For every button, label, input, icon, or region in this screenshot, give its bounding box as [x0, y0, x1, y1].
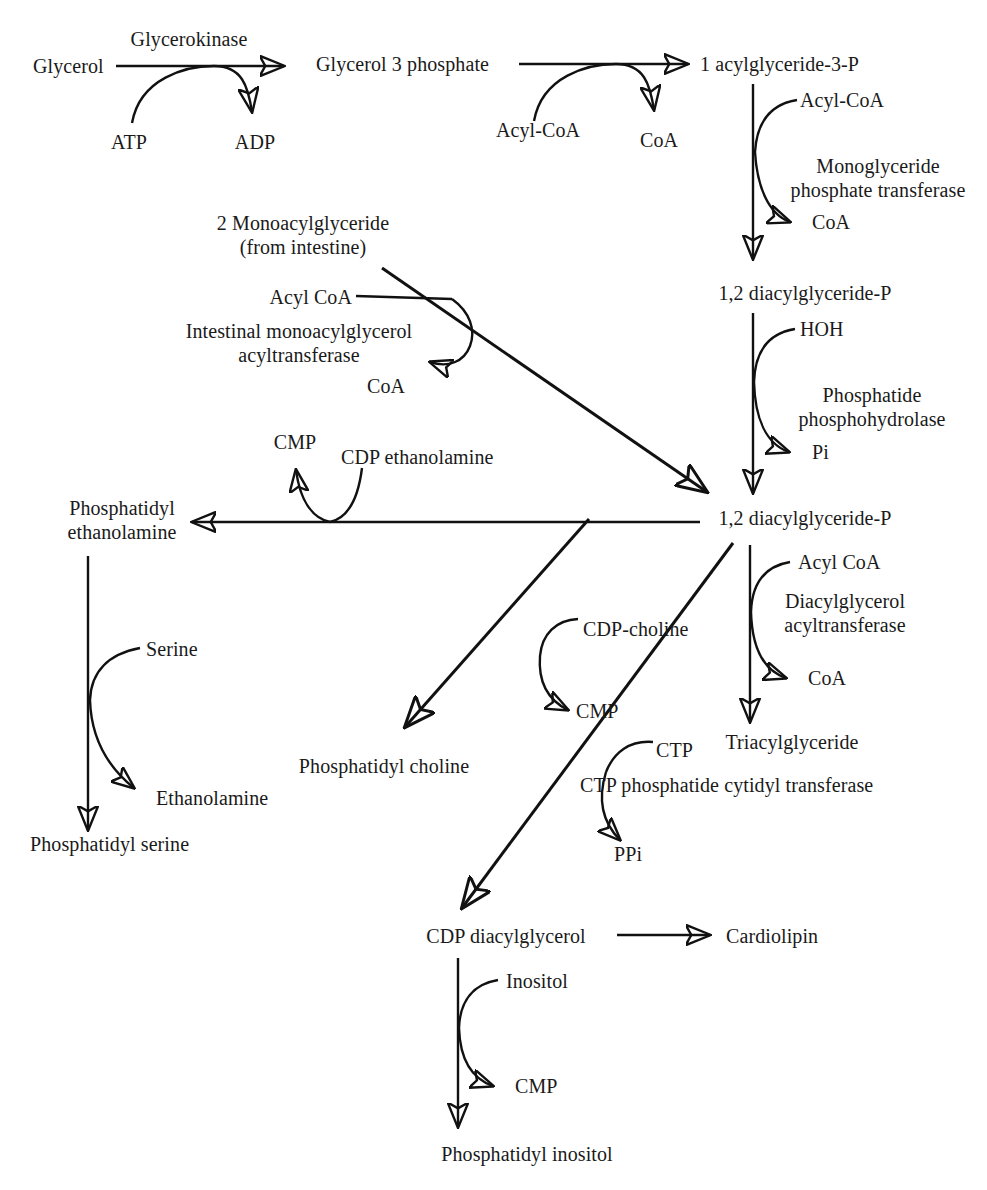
node-phosphatidyl-inositol: Phosphatidyl inositol — [441, 1143, 613, 1167]
cofactor-acyl-coa-4: Acyl CoA — [798, 551, 880, 575]
node-cardiolipin: Cardiolipin — [726, 925, 818, 949]
enzyme-monoglyceride-phosphate-transferase-line1: Monoglyceride — [816, 155, 940, 179]
curve-acylcoa-to-coa-1 — [534, 64, 654, 121]
curve-cdp-ethanolamine-in — [330, 468, 362, 522]
cofactor-pi: Pi — [812, 441, 829, 465]
curve-cmp-out-1 — [296, 470, 330, 522]
node-diacylglyceride-p-1: 1,2 diacylglyceride-P — [718, 282, 891, 306]
node-monoacylglyceride: 2 Monoacylglyceride — [217, 212, 389, 236]
curve-cmp-out-2 — [540, 656, 568, 710]
curve-coa-out-4 — [751, 612, 786, 678]
curve-ethanolamine-out — [90, 700, 134, 788]
enzyme-phosphatide-phosphohydrolase-line2: phosphohydrolase — [798, 408, 945, 432]
node-phosphatidyl-ethanolamine-line2: ethanolamine — [68, 521, 177, 545]
cofactor-atp: ATP — [111, 131, 147, 155]
pathway-diagram-page: Glycerol Glycerokinase ATP ADP Glycerol … — [0, 0, 987, 1190]
enzyme-intestinal-monoacylglycerol-acyltransferase-line2: acyltransferase — [238, 344, 359, 368]
line-acylcoa-in-3 — [356, 296, 452, 299]
cofactor-acyl-coa-3: Acyl CoA — [270, 286, 352, 310]
arrow-hub-to-cdp-diacylglycerol — [462, 543, 733, 908]
cofactor-inositol: Inositol — [506, 970, 568, 994]
cofactor-coa-3: CoA — [367, 375, 405, 399]
curve-hoh-in — [754, 329, 795, 382]
node-glycerol: Glycerol — [33, 55, 104, 79]
node-phosphatidyl-serine: Phosphatidyl serine — [30, 833, 189, 857]
curve-ctp-in — [606, 742, 653, 772]
enzyme-ctp-phosphatide-cytidyl-transferase: CTP phosphatide cytidyl transferase — [580, 774, 873, 798]
curve-coa-out-3 — [430, 299, 472, 364]
enzyme-diacylglycerol-acyltransferase-line2: acyltransferase — [784, 614, 905, 638]
cofactor-ethanolamine: Ethanolamine — [156, 787, 268, 811]
curve-cdp-choline-in — [540, 619, 578, 656]
cofactor-cmp-1: CMP — [274, 431, 317, 455]
cofactor-cmp-3: CMP — [515, 1075, 558, 1099]
cofactor-coa-2: CoA — [812, 211, 850, 235]
cofactor-coa-1: CoA — [640, 129, 678, 153]
cofactor-cdp-choline: CDP-choline — [583, 618, 689, 642]
node-acylglyceride-3-p: 1 acylglyceride-3-P — [700, 53, 859, 77]
curve-serine-in — [90, 648, 140, 700]
enzyme-monoglyceride-phosphate-transferase-line2: phosphate transferase — [791, 179, 966, 203]
cofactor-acyl-coa-1: Acyl-CoA — [496, 119, 580, 143]
curve-pi-out — [754, 382, 789, 452]
curve-inositol-in — [459, 980, 498, 1028]
cofactor-cdp-ethanolamine: CDP ethanolamine — [341, 446, 494, 470]
enzyme-intestinal-monoacylglycerol-acyltransferase-line1: Intestinal monoacylglycerol — [186, 320, 413, 344]
node-triacylglyceride: Triacylglyceride — [725, 731, 858, 755]
cofactor-serine: Serine — [146, 638, 198, 662]
cofactor-ctp: CTP — [656, 739, 693, 763]
node-diacylglyceride-p-2: 1,2 diacylglyceride-P — [718, 507, 891, 531]
enzyme-phosphatide-phosphohydrolase-line1: Phosphatide — [823, 384, 922, 408]
node-phosphatidyl-choline: Phosphatidyl choline — [299, 755, 469, 779]
cofactor-adp: ADP — [235, 131, 275, 155]
curve-atp-to-adp — [132, 66, 252, 123]
cofactor-coa-4: CoA — [808, 667, 846, 691]
node-phosphatidyl-ethanolamine-line1: Phosphatidyl — [69, 497, 175, 521]
cofactor-acyl-coa-2: Acyl-CoA — [800, 89, 884, 113]
curve-cmp-out-3 — [459, 1028, 493, 1086]
cofactor-hoh: HOH — [800, 318, 844, 342]
node-glycerol-3-phosphate: Glycerol 3 phosphate — [316, 53, 489, 77]
node-cdp-diacylglycerol: CDP diacylglycerol — [426, 925, 585, 949]
node-monoacylglyceride-source: (from intestine) — [240, 236, 367, 260]
cofactor-cmp-2: CMP — [576, 700, 619, 724]
curve-coa-out-2 — [755, 152, 790, 222]
enzyme-glycerokinase: Glycerokinase — [131, 28, 248, 52]
enzyme-diacylglycerol-acyltransferase-line1: Diacylglycerol — [785, 590, 905, 614]
cofactor-ppi: PPi — [614, 843, 642, 867]
curve-acylcoa-in-2 — [755, 100, 797, 152]
